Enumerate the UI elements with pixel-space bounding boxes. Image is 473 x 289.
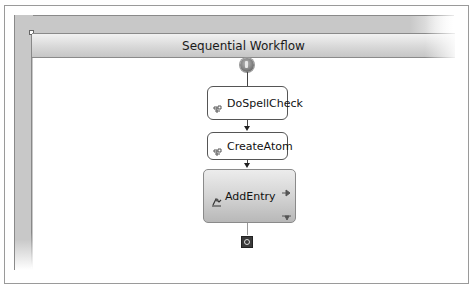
activity-label: DoSpellCheck <box>227 97 303 110</box>
output-arrow-icon <box>282 206 291 214</box>
header-fade <box>425 15 460 58</box>
activity-label: AddEntry <box>225 190 276 203</box>
connector-arrow-icon <box>244 126 250 131</box>
input-arrow-icon <box>282 182 291 190</box>
workflow-start-icon[interactable] <box>240 58 254 72</box>
connector-arrow-icon <box>244 163 250 168</box>
composite-activity-icon <box>211 192 220 201</box>
code-activity-icon <box>213 99 222 108</box>
designer-left-border <box>31 32 32 268</box>
activity-dospellcheck[interactable]: DoSpellCheck <box>207 86 288 120</box>
designer-top-band <box>14 15 454 34</box>
activity-createatom[interactable]: CreateAtom <box>207 132 288 160</box>
code-activity-icon <box>213 142 222 151</box>
activity-label: CreateAtom <box>227 140 293 153</box>
connector-line <box>247 72 248 86</box>
workflow-header[interactable]: Sequential Workflow <box>32 33 455 58</box>
workflow-end-icon[interactable] <box>241 236 253 248</box>
workflow-title: Sequential Workflow <box>182 39 305 53</box>
connector-line <box>247 223 248 235</box>
activity-addentry[interactable]: AddEntry <box>203 169 296 223</box>
